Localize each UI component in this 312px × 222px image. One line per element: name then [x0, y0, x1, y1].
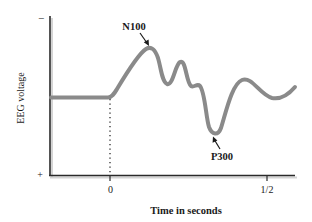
- n100-label: N100: [122, 21, 145, 32]
- p300-label: P300: [211, 151, 233, 162]
- x-tick-label-zero: 0: [108, 184, 113, 195]
- p300-arrow-icon: [213, 137, 220, 150]
- x-tick-label-half: 1/2: [261, 184, 274, 195]
- y-bottom-sign: +: [37, 169, 43, 180]
- x-axis-label: Time in seconds: [150, 205, 222, 216]
- y-axis-label: EEG voltage: [15, 72, 26, 124]
- erp-waveform: [51, 48, 295, 134]
- n100-arrow-icon: [140, 33, 149, 46]
- erp-chart: − + EEG voltage 0 1/2 Time in seconds N1…: [0, 0, 312, 222]
- y-top-sign: −: [38, 12, 44, 24]
